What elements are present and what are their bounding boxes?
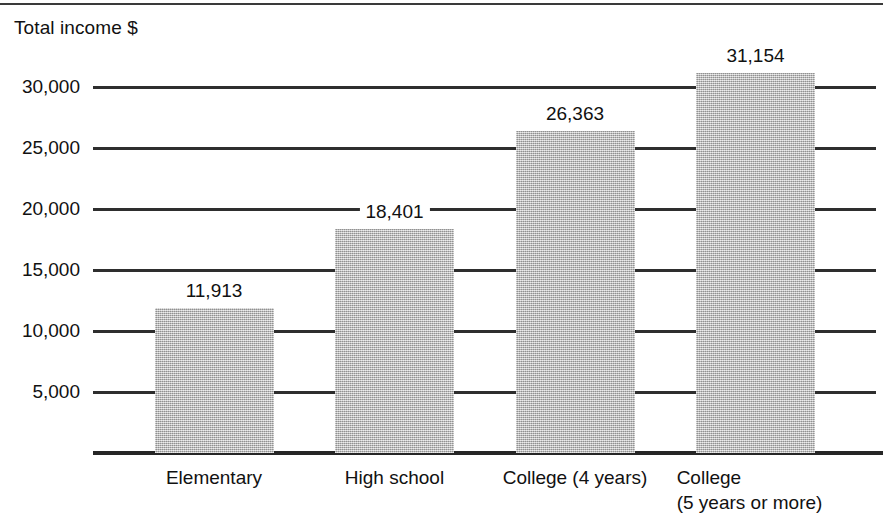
y-tick-label: 15,000 bbox=[22, 259, 80, 281]
bar bbox=[516, 131, 635, 453]
bar-value-label: 18,401 bbox=[359, 201, 429, 223]
bar bbox=[335, 229, 454, 453]
y-tick-label: 25,000 bbox=[22, 137, 80, 159]
y-tick-label: 10,000 bbox=[22, 320, 80, 342]
y-tick-label: 30,000 bbox=[22, 76, 80, 98]
x-tick-label: High school bbox=[345, 465, 444, 490]
x-tick-label: College(5 years or more) bbox=[677, 465, 823, 515]
bar-value-label: 26,363 bbox=[540, 103, 610, 125]
bar-value-label: 11,913 bbox=[180, 280, 249, 302]
x-tick-label: College (4 years) bbox=[503, 465, 648, 490]
y-tick-label: 20,000 bbox=[22, 198, 80, 220]
x-tick-label: Elementary bbox=[166, 465, 262, 490]
plot-area: 5,00010,00015,00020,00025,00030,000 11,9… bbox=[0, 0, 883, 521]
income-by-education-bar-chart: Total income $ 5,00010,00015,00020,00025… bbox=[0, 0, 883, 521]
x-tick-label-line: (5 years or more) bbox=[677, 490, 823, 515]
y-tick-label: 5,000 bbox=[32, 381, 80, 403]
x-tick-label-line: College bbox=[677, 465, 823, 490]
x-tick-label-line: High school bbox=[345, 465, 444, 490]
x-tick-label-line: Elementary bbox=[166, 465, 262, 490]
x-tick-label-line: College (4 years) bbox=[503, 465, 648, 490]
bar-value-label: 31,154 bbox=[720, 45, 790, 67]
bar bbox=[696, 73, 815, 453]
bar bbox=[155, 308, 274, 453]
